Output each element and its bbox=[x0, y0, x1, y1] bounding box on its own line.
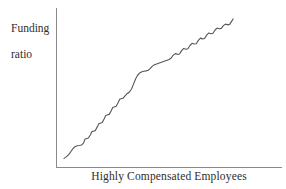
y-axis-label-line2: ratio bbox=[11, 48, 55, 61]
data-series-funding-ratio bbox=[64, 19, 233, 158]
y-axis-label: Funding ratio bbox=[11, 9, 55, 74]
chart-figure: Funding ratio Highly Compensated Employe… bbox=[0, 0, 286, 189]
y-axis-label-line1: Funding bbox=[11, 22, 55, 35]
x-axis-label: Highly Compensated Employees bbox=[56, 170, 282, 182]
